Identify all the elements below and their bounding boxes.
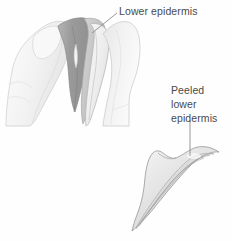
label-lower-epidermis: Lower epidermis: [119, 5, 198, 19]
leaf-peel-figure: Lower epidermis Peeled lower epidermis: [0, 0, 232, 241]
right-hand-group: [103, 22, 140, 126]
label-peeled-line-3: epidermis: [171, 112, 229, 126]
peeled-epidermis-strip: [132, 147, 219, 231]
peeled-strip-highlight: [187, 153, 201, 159]
label-peeled-line-1: Peeled: [171, 84, 229, 98]
right-thumb: [103, 22, 140, 126]
peeled-specimen-group: [132, 147, 219, 231]
label-peeled-lower-epidermis: Peeled lower epidermis: [171, 84, 229, 126]
label-peeled-line-2: lower: [171, 98, 229, 112]
